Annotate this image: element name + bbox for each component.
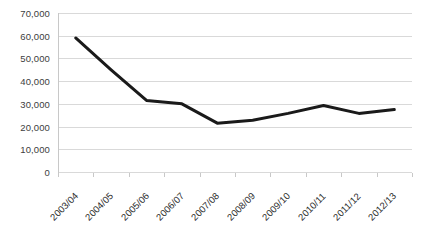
x-category-label: 2011/12 bbox=[331, 190, 363, 222]
y-tick-label: 0 bbox=[0, 168, 50, 178]
x-category-label: 2009/10 bbox=[260, 190, 293, 223]
x-category-label: 2010/11 bbox=[295, 190, 327, 222]
y-tick-label: 60,000 bbox=[0, 32, 50, 42]
x-tick bbox=[58, 173, 59, 177]
x-tick bbox=[129, 173, 130, 177]
y-tick-label: 70,000 bbox=[0, 9, 50, 19]
x-tick bbox=[164, 173, 165, 177]
x-category-label: 2005/06 bbox=[118, 190, 151, 223]
y-tick-label: 20,000 bbox=[0, 123, 50, 133]
x-category-label: 2012/13 bbox=[366, 190, 399, 223]
x-tick bbox=[377, 173, 378, 177]
y-tick-label: 40,000 bbox=[0, 77, 50, 87]
x-tick bbox=[306, 173, 307, 177]
x-tick bbox=[341, 173, 342, 177]
line-chart: 70,000 60,000 50,000 40,000 30,000 20,00… bbox=[0, 0, 425, 235]
x-tick bbox=[235, 173, 236, 177]
x-tick bbox=[270, 173, 271, 177]
y-axis-tick-labels: 70,000 60,000 50,000 40,000 30,000 20,00… bbox=[0, 13, 425, 172]
x-category-label: 2003/04 bbox=[47, 190, 80, 223]
y-tick-label: 50,000 bbox=[0, 54, 50, 64]
x-tick bbox=[412, 173, 413, 177]
x-tick bbox=[200, 173, 201, 177]
x-category-label: 2007/08 bbox=[189, 190, 222, 223]
x-axis-category-labels: 2003/04 2004/05 2005/06 2006/07 2007/08 … bbox=[0, 178, 425, 235]
x-category-label: 2004/05 bbox=[83, 190, 116, 223]
x-category-label: 2008/09 bbox=[224, 190, 257, 223]
y-tick-label: 30,000 bbox=[0, 100, 50, 110]
x-tick bbox=[93, 173, 94, 177]
y-tick-label: 10,000 bbox=[0, 145, 50, 155]
x-category-label: 2006/07 bbox=[154, 190, 187, 223]
